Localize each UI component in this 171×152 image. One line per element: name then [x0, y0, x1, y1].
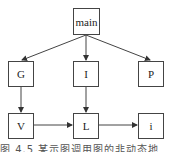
node-main: main	[74, 9, 100, 35]
call-graph-diagram: main G I P V L i	[0, 0, 171, 152]
node-p: P	[139, 62, 164, 87]
edge-main-g	[22, 35, 86, 60]
node-label: I	[84, 68, 88, 80]
edge-main-p	[86, 35, 150, 60]
node-l: L	[74, 114, 99, 139]
node-lower-i: i	[139, 114, 164, 139]
node-label: P	[148, 68, 154, 80]
node-label: V	[17, 120, 25, 132]
node-label: L	[83, 120, 90, 132]
node-label: i	[149, 120, 152, 132]
node-i: I	[74, 62, 99, 87]
node-v: V	[9, 114, 34, 139]
node-label: main	[76, 16, 98, 28]
node-label: G	[17, 68, 25, 80]
figure-caption: 图 4.5 某示图调用图的非动态地	[0, 141, 171, 152]
node-g: G	[9, 62, 34, 87]
